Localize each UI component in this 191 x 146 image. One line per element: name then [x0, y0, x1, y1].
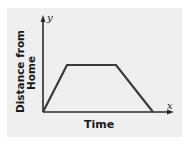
x-axis-label: Time	[84, 118, 114, 131]
y-axis-label-line2: Home	[26, 33, 37, 113]
y-axis-label: Distance from Home	[15, 33, 37, 113]
x-variable-label: x	[167, 100, 173, 111]
distance-line	[43, 65, 153, 112]
y-variable-label: y	[47, 12, 53, 23]
y-axis-arrow-icon	[41, 15, 46, 22]
